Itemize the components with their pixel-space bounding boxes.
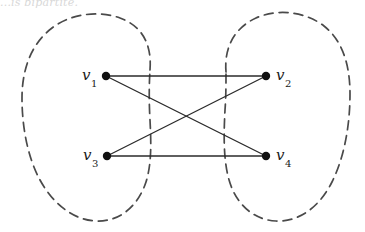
- bipartite-graph-figure: ...is bipartite. v1 v2 v3 v4: [0, 0, 365, 232]
- vertex-label-v4: v4: [276, 148, 291, 163]
- vertex-label-v3: v3: [83, 148, 98, 163]
- vertex-label-v2: v2: [276, 68, 291, 83]
- vertex-label-subscript: 2: [285, 78, 291, 89]
- vertex-node-v1[interactable]: [102, 72, 110, 80]
- vertex-label-subscript: 3: [92, 158, 98, 169]
- left-partition-blob: [22, 14, 151, 221]
- vertex-label-v1: v1: [82, 68, 97, 83]
- vertex-label-subscript: 1: [91, 78, 97, 89]
- right-partition-blob: [224, 12, 350, 221]
- vertex-node-v4[interactable]: [262, 152, 270, 160]
- graph-canvas: [0, 0, 365, 232]
- vertex-node-v2[interactable]: [262, 72, 270, 80]
- vertex-node-v3[interactable]: [103, 152, 111, 160]
- graph-edges-group: [106, 76, 266, 156]
- vertex-label-subscript: 4: [285, 158, 291, 169]
